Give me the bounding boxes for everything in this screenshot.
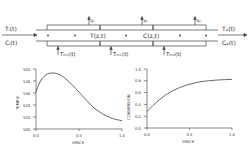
temperature-curve bbox=[36, 73, 122, 121]
temp-xtick-0: 0.0 bbox=[33, 133, 40, 138]
bottom-jacket-3 bbox=[153, 41, 206, 46]
reactor-diagram bbox=[2, 17, 247, 56]
temperature-chart: 550 540 530 520 510 500 0.0 0.5 1.0 SPAC… bbox=[15, 67, 126, 146]
conv-xtick-1: 1.0 bbox=[229, 132, 236, 137]
temp-xtick-1: 1.0 bbox=[119, 133, 126, 138]
inlet-arrow-head bbox=[34, 34, 37, 37]
temp-xlabel: SPACE bbox=[72, 140, 85, 145]
conc-field-label: C(z,t) bbox=[143, 32, 159, 39]
conv-ytick-06: 0.6 bbox=[135, 90, 142, 95]
temp-ytick-550: 550 bbox=[23, 67, 31, 72]
figure: Tᵢ(t) Cᵢ(t) Tₑ(t) Cₑ(t) T(z,t) C(z,t) Tₘ… bbox=[0, 0, 251, 155]
conv-xtick-0: 0.0 bbox=[144, 132, 151, 137]
temp-ylabel: TEMP K bbox=[15, 96, 20, 111]
conv-ytick-0: 0.0 bbox=[135, 126, 142, 131]
conv-ytick-1: 1.0 bbox=[135, 67, 142, 72]
outlet-temp-label: Tₑ(t) bbox=[221, 25, 235, 32]
temp-ytick-530: 530 bbox=[23, 91, 31, 96]
conv-ytick-04: 0.4 bbox=[135, 102, 142, 107]
temp-ytick-510: 510 bbox=[23, 115, 31, 120]
heat-flow-arrows bbox=[88, 17, 196, 26]
heat-flow-1-label: q₁ bbox=[91, 18, 96, 23]
temp-field-label: T(z,t) bbox=[89, 32, 106, 39]
temp-ytick-540: 540 bbox=[23, 79, 31, 84]
wall-temp-2-label: Tₘ₂(t) bbox=[112, 51, 128, 57]
conversion-chart: 1.0 0.8 0.6 0.4 0.2 0.0 0.0 0.5 1.0 SPAC… bbox=[126, 67, 236, 145]
conv-xtick-05: 0.5 bbox=[187, 132, 194, 137]
inlet-conc-label: Cᵢ(t) bbox=[5, 39, 17, 46]
bottom-jacket-1 bbox=[47, 41, 100, 46]
temp-xtick-05: 0.5 bbox=[76, 133, 83, 138]
top-jacket-1 bbox=[47, 25, 100, 30]
temp-ytick-500: 500 bbox=[23, 127, 31, 132]
conversion-curve bbox=[147, 79, 232, 111]
heat-flow-3-label: q₃ bbox=[197, 18, 202, 23]
wall-temp-1-label: Tₘ₁(t) bbox=[59, 51, 75, 57]
conv-ylabel: CONVERSION bbox=[126, 94, 131, 120]
bottom-jacket-2 bbox=[100, 41, 153, 46]
collocation-points bbox=[47, 35, 207, 37]
conv-xlabel: SPACE bbox=[182, 139, 195, 144]
conv-ytick-02: 0.2 bbox=[135, 114, 142, 119]
inlet-temp-label: Tᵢ(t) bbox=[4, 25, 17, 32]
top-jacket-3 bbox=[153, 25, 206, 30]
outlet-conc-label: Cₑ(t) bbox=[222, 39, 236, 46]
temp-ytick-520: 520 bbox=[23, 103, 31, 108]
top-jacket-2 bbox=[100, 25, 153, 30]
outlet-arrow-head bbox=[244, 34, 247, 37]
conv-ytick-08: 0.8 bbox=[135, 78, 142, 83]
wall-temp-3-label: Tₘ₃(t) bbox=[165, 51, 181, 57]
heat-flow-2-label: q₂ bbox=[144, 18, 149, 23]
